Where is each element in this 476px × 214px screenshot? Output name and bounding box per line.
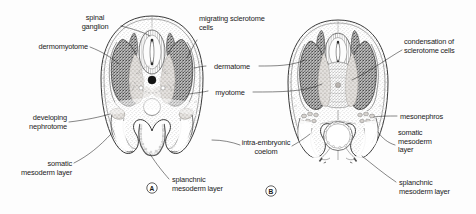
notochord-a <box>148 76 156 84</box>
label-somatic-right-line3: layer <box>398 145 414 154</box>
label-condensation-of-sclerotome-cells: condensation of sclerotome cells <box>404 37 455 55</box>
gut-tube-inner-b <box>326 124 350 148</box>
label-splanchnic-right-line2: mesoderm layer <box>399 187 451 196</box>
panel-letter-b: B <box>266 186 276 196</box>
label-dermatome: dermatome <box>214 62 250 71</box>
notochord-b <box>335 82 340 87</box>
somite-differentiation-figure: spinal ganglion dermomyotome migrating s… <box>0 0 476 214</box>
figure-page: spinal ganglion dermomyotome migrating s… <box>0 0 476 214</box>
panel-b-section <box>288 20 388 170</box>
panel-letter-b-text: B <box>269 188 274 195</box>
label-developing-nephrotome: developing nephrotome <box>29 113 67 131</box>
label-condensation-line2: sclerotome cells <box>404 46 455 55</box>
neural-canal-lumen-a <box>150 41 154 63</box>
label-migrating-sclerotome-cells-line2: cells <box>199 23 213 32</box>
panel-letter-a-text: A <box>150 185 155 192</box>
panel-letter-a: A <box>147 183 157 193</box>
label-mesonephros: mesonephros <box>400 112 444 121</box>
label-developing-nephrotome-line2: nephrotome <box>29 122 67 131</box>
label-spinal-ganglion-line2: ganglion <box>82 22 109 31</box>
label-intraembryonic-coelom-line2: coelom <box>255 147 278 156</box>
label-splanchnic-center-line2: mesoderm layer <box>172 184 224 193</box>
dorsal-aorta-left-a <box>139 86 143 90</box>
label-somatic-left-line2: mesoderm layer <box>21 168 73 177</box>
dorsal-aorta-right-a <box>161 86 165 90</box>
neural-canal-lumen-b <box>336 43 340 61</box>
label-dermomyotome: dermomyotome <box>38 42 88 51</box>
label-myotome: myotome <box>215 88 244 97</box>
